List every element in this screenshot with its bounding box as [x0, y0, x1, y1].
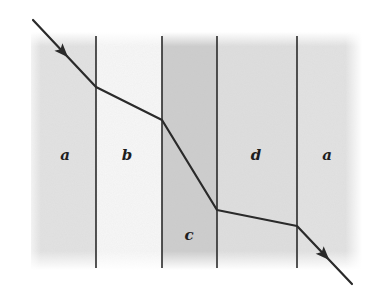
label-d: d	[251, 146, 262, 164]
label-c: c	[184, 226, 193, 244]
label-a: a	[60, 146, 70, 164]
label-b: b	[122, 146, 133, 164]
refraction-diagram: abcda	[0, 0, 384, 303]
label-a: a	[322, 146, 332, 164]
panel-fade-horizontal	[31, 32, 362, 270]
